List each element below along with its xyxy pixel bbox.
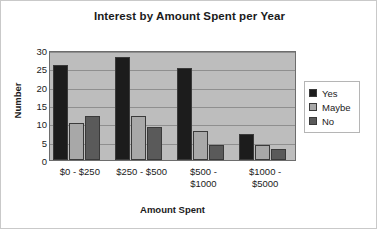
bar xyxy=(193,131,208,160)
legend-item-no[interactable]: No xyxy=(309,114,356,128)
x-axis-tick-label: $0 - $250 xyxy=(49,166,111,178)
legend-label: Yes xyxy=(322,88,338,99)
y-axis-tick-label: 10 xyxy=(23,119,47,130)
chart-container: Interest by Amount Spent per Year Number… xyxy=(0,0,377,229)
x-axis-title: Amount Spent xyxy=(49,204,296,215)
x-axis-tick-label: $250 - $500 xyxy=(111,166,173,178)
bar xyxy=(209,145,224,160)
bar xyxy=(69,123,84,160)
legend: YesMaybeNo xyxy=(304,81,360,133)
bar xyxy=(239,134,254,160)
bars-layer xyxy=(50,52,295,160)
bar-group xyxy=(174,52,236,160)
legend-swatch-icon xyxy=(309,103,317,111)
y-axis-tick-label: 30 xyxy=(23,46,47,57)
legend-swatch-icon xyxy=(309,89,317,97)
bar xyxy=(271,149,286,160)
bar xyxy=(255,145,270,160)
bar xyxy=(53,65,68,160)
bar xyxy=(131,116,146,160)
bar-group xyxy=(50,52,112,160)
x-axis-tick-label: $1000 -$5000 xyxy=(234,166,296,189)
x-axis-tick-label: $500 -$1000 xyxy=(173,166,235,189)
chart-title: Interest by Amount Spent per Year xyxy=(1,10,377,22)
legend-label: Maybe xyxy=(322,102,351,113)
y-axis-tick-label: 5 xyxy=(23,138,47,149)
legend-label: No xyxy=(322,116,334,127)
bar-group xyxy=(235,52,297,160)
bar xyxy=(147,127,162,160)
y-axis-tick-labels: 051015202530 xyxy=(23,45,47,161)
y-axis-tick-label: 25 xyxy=(23,64,47,75)
legend-item-maybe[interactable]: Maybe xyxy=(309,100,356,114)
y-axis-tick-label: 15 xyxy=(23,101,47,112)
legend-swatch-icon xyxy=(309,117,317,125)
legend-item-yes[interactable]: Yes xyxy=(309,86,356,100)
y-axis-title: Number xyxy=(12,71,23,131)
y-axis-tick-label: 20 xyxy=(23,83,47,94)
plot-area xyxy=(49,51,296,161)
bar-group xyxy=(112,52,174,160)
x-axis-tick-labels: $0 - $250$250 - $500$500 -$1000$1000 -$5… xyxy=(49,166,296,200)
bar xyxy=(85,116,100,160)
bar xyxy=(177,68,192,160)
y-axis-tick-label: 0 xyxy=(23,156,47,167)
bar xyxy=(115,57,130,160)
